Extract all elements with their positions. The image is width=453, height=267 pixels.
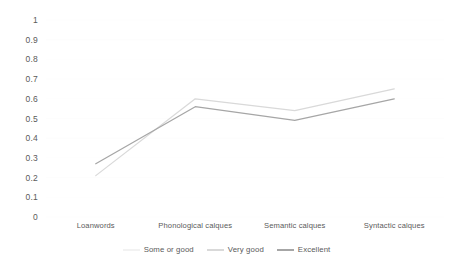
y-axis-tick-label: 0.3 [26,154,38,163]
legend-item-label: Excellent [298,246,331,254]
line-chart: 1 0.9 0.8 0.7 0.6 0.5 0.4 0.3 0.2 0.1 0 [0,0,453,267]
x-axis-tick-label: Loanwords [77,222,115,230]
chart-legend: Some or good Very good Excellent [0,242,453,258]
y-axis-tick-label: 0.1 [26,193,38,202]
legend-item-excellent[interactable]: Excellent [277,246,331,254]
plot-area [46,20,444,217]
y-axis-tick-label: 0.6 [26,95,38,104]
legend-line-swatch-icon [123,249,140,250]
x-axis-tick-label: Semantic calques [264,222,326,230]
x-axis-tick-label: Syntactic calques [364,222,425,230]
y-axis-tick-label: 0.8 [26,55,38,64]
legend-line-swatch-icon [207,249,224,250]
y-axis-tick-label: 0.2 [26,173,38,182]
legend-item-label: Very good [228,246,264,254]
series-line-excellent [96,99,395,164]
series-group [96,89,395,176]
x-axis: Loanwords Phonological calques Semantic … [46,222,444,238]
gridlines [46,20,444,217]
y-axis-tick-label: 1 [33,16,38,25]
x-axis-tick-label: Phonological calques [158,222,232,230]
y-axis-tick-label: 0 [33,213,38,222]
legend-line-swatch-icon [277,249,294,250]
plot-svg [46,20,444,217]
y-axis-tick-label: 0.7 [26,75,38,84]
y-axis-tick-label: 0.9 [26,35,38,44]
series-line-very-good [96,89,395,176]
y-axis: 1 0.9 0.8 0.7 0.6 0.5 0.4 0.3 0.2 0.1 0 [0,0,46,267]
legend-item-very-good[interactable]: Very good [207,246,264,254]
y-axis-tick-label: 0.5 [26,114,38,123]
legend-item-some-or-good[interactable]: Some or good [123,246,194,254]
legend-item-label: Some or good [144,246,194,254]
y-axis-tick-label: 0.4 [26,134,38,143]
